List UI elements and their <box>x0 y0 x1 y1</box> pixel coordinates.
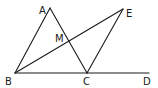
label-c: C <box>83 76 90 87</box>
segment-be <box>15 9 123 73</box>
label-d: D <box>143 76 151 87</box>
label-b: B <box>5 76 12 87</box>
label-e: E <box>126 8 132 19</box>
segment-ce <box>87 9 123 73</box>
label-a: A <box>39 5 46 16</box>
label-m: M <box>55 33 64 44</box>
geometry-diagram: A E M B C D <box>0 0 158 88</box>
